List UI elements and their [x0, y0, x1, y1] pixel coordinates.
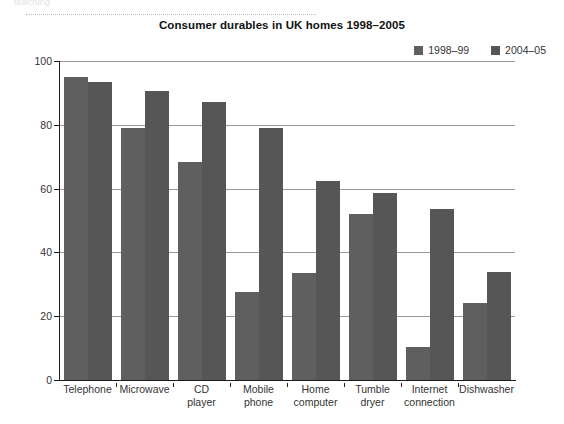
bar-group: [116, 61, 173, 380]
x-axis-category-label-line: CD: [173, 383, 230, 396]
chart-legend: 1998–992004–05: [414, 44, 546, 56]
legend-swatch-icon: [491, 46, 500, 55]
x-axis-category-label-line: phone: [230, 396, 287, 409]
legend-item: 2004–05: [491, 44, 546, 56]
bar: [64, 77, 88, 380]
chart-title: Consumer durables in UK homes 1998–2005: [0, 19, 564, 31]
bar: [292, 273, 316, 380]
x-axis-line: [59, 380, 516, 381]
y-axis-tick-label: 0: [22, 374, 52, 386]
plot-area: [59, 61, 515, 380]
y-axis-tick-label: 100: [22, 55, 52, 67]
bar: [235, 292, 259, 380]
bar: [316, 181, 340, 380]
x-axis-category-label-line: Mobile: [230, 383, 287, 396]
x-axis-tick-mark: [344, 383, 345, 387]
bar-group: [287, 61, 344, 380]
x-axis-category-labels: TelephoneMicrowaveCDplayerMobilephoneHom…: [59, 383, 515, 423]
bar-group: [173, 61, 230, 380]
x-axis-category-label-line: Internet: [401, 383, 458, 396]
legend-label: 1998–99: [428, 44, 469, 56]
x-axis-category-label: Microwave: [116, 383, 173, 396]
y-axis-tick-label: 80: [22, 119, 52, 131]
x-axis-category-label: Mobilephone: [230, 383, 287, 408]
bar: [259, 128, 283, 380]
x-axis-tick-mark: [458, 383, 459, 387]
x-axis-category-label: Dishwasher: [458, 383, 515, 396]
bar: [88, 82, 112, 380]
x-axis-category-label-line: dryer: [344, 396, 401, 409]
x-axis-category-label-line: Home: [287, 383, 344, 396]
x-axis-tick-mark: [116, 383, 117, 387]
bar: [430, 209, 454, 380]
bar: [349, 214, 373, 380]
bar-group: [401, 61, 458, 380]
bar-group: [230, 61, 287, 380]
legend-label: 2004–05: [505, 44, 546, 56]
bar-group: [59, 61, 116, 380]
x-axis-tick-mark: [401, 383, 402, 387]
legend-swatch-icon: [414, 46, 423, 55]
x-axis-category-label-line: Microwave: [116, 383, 173, 396]
y-axis-tick-labels: 020406080100: [22, 61, 52, 380]
cut-off-header-text: teaching: [14, 0, 50, 7]
x-axis-category-label-line: computer: [287, 396, 344, 409]
x-axis-tick-mark: [287, 383, 288, 387]
chart-page: teaching Consumer durables in UK homes 1…: [0, 0, 564, 424]
y-axis-tick-label: 40: [22, 246, 52, 258]
x-axis-category-label: Homecomputer: [287, 383, 344, 408]
bar: [202, 102, 226, 380]
y-axis-tick-label: 60: [22, 183, 52, 195]
x-axis-category-label: Tumbledryer: [344, 383, 401, 408]
bar: [487, 272, 511, 380]
y-axis-tick-label: 20: [22, 310, 52, 322]
y-axis-line: [59, 61, 60, 381]
x-axis-category-label-line: Dishwasher: [458, 383, 515, 396]
bar: [145, 91, 169, 380]
x-axis-category-label-line: player: [173, 396, 230, 409]
bar: [121, 128, 145, 380]
bar: [178, 162, 202, 381]
bar-group: [458, 61, 515, 380]
x-axis-tick-mark: [230, 383, 231, 387]
x-axis-category-label: Internetconnection: [401, 383, 458, 408]
x-axis-category-label-line: Telephone: [59, 383, 116, 396]
x-axis-category-label-line: connection: [401, 396, 458, 409]
bar: [373, 193, 397, 380]
bar-group: [344, 61, 401, 380]
x-axis-category-label: CDplayer: [173, 383, 230, 408]
x-axis-category-label-line: Tumble: [344, 383, 401, 396]
bar: [406, 347, 430, 380]
legend-item: 1998–99: [414, 44, 469, 56]
dotted-divider: [26, 14, 316, 15]
x-axis-tick-mark: [173, 383, 174, 387]
bar: [463, 303, 487, 380]
x-axis-category-label: Telephone: [59, 383, 116, 396]
